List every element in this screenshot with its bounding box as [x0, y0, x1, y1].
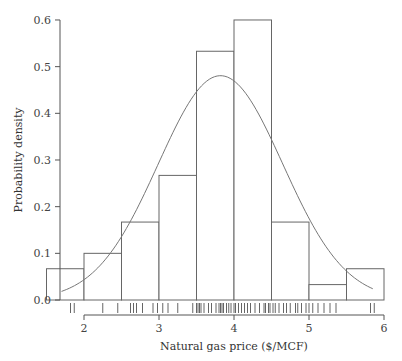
x-tick-label: 4 [231, 322, 238, 335]
rug-plot [71, 303, 375, 313]
y-axis-ticks: 0.00.10.20.30.40.50.6 [34, 14, 61, 307]
histogram-bar [47, 269, 85, 300]
histogram-bar [84, 253, 122, 300]
histogram-bar [122, 222, 160, 300]
y-tick-label: 0.1 [34, 247, 52, 260]
y-tick-label: 0.5 [34, 61, 52, 74]
histogram-bar [309, 285, 347, 300]
x-tick-label: 3 [156, 322, 163, 335]
x-axis-title: Natural gas price ($/MCF) [160, 340, 308, 353]
x-tick-label: 6 [381, 322, 388, 335]
histogram-bars [47, 20, 385, 300]
histogram-chart: 0.00.10.20.30.40.50.6 23456 Natural gas … [0, 0, 402, 361]
histogram-bar [347, 269, 385, 300]
x-tick-label: 5 [306, 322, 313, 335]
y-tick-label: 0.6 [34, 14, 52, 27]
y-tick-label: 0.2 [34, 201, 52, 214]
y-tick-label: 0.0 [34, 294, 52, 307]
histogram-bar [234, 20, 272, 300]
x-tick-label: 2 [81, 322, 88, 335]
x-axis-ticks: 23456 [81, 315, 388, 335]
y-tick-label: 0.3 [34, 154, 52, 167]
histogram-bar [197, 51, 235, 300]
y-axis-title: Probability density [12, 107, 25, 213]
histogram-bar [272, 222, 310, 300]
histogram-bar [159, 175, 197, 300]
y-tick-label: 0.4 [34, 107, 52, 120]
